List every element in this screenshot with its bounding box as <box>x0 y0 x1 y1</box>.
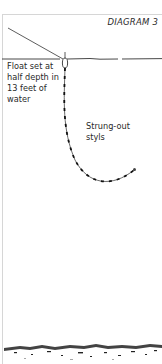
fishing-line <box>64 68 134 181</box>
water-surface <box>2 59 162 60</box>
hook-icon <box>133 168 136 171</box>
float-icon <box>62 58 67 68</box>
rod-line <box>8 28 63 59</box>
diagram-drawing <box>0 0 162 364</box>
strung-out-styls <box>64 68 134 181</box>
river-bed <box>4 344 162 360</box>
